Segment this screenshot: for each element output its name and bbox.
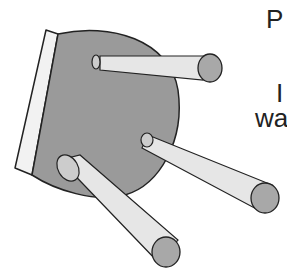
text-fragment-1: P <box>266 6 283 32</box>
stool-leg-2 <box>141 133 279 213</box>
text-fragment-3: wa <box>255 105 287 131</box>
stool-illustration <box>0 0 287 271</box>
